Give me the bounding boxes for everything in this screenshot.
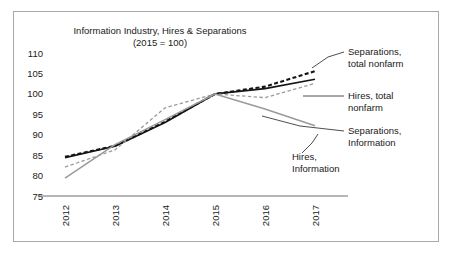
annotation-label-separations-total-nonfarm: Separations, xyxy=(348,46,401,57)
y-tick-label: 105 xyxy=(27,68,43,79)
chart-titles: Information Industry, Hires & Separation… xyxy=(73,25,246,48)
chart-subtitle: (2015 = 100) xyxy=(133,37,187,48)
annotation-label-separations-information: Separations, xyxy=(348,125,401,136)
x-tick-label: 2015 xyxy=(210,205,221,226)
series-line xyxy=(65,94,315,178)
annotation-label-separations-total-nonfarm: total nonfarm xyxy=(348,58,404,69)
series-lines xyxy=(65,71,315,178)
x-tick-label: 2016 xyxy=(260,205,271,226)
y-axis-tick-labels: 1101051009590858075 xyxy=(27,48,43,202)
y-tick-label: 110 xyxy=(28,48,43,59)
y-tick-label: 100 xyxy=(27,88,43,99)
x-axis-tick-labels: 201220132014201520162017 xyxy=(60,205,321,226)
series-annotations: Separations,total nonfarmHires, totalnon… xyxy=(262,46,404,174)
annotation-label-hires-information: Hires, xyxy=(292,151,317,162)
series-line xyxy=(65,79,315,157)
x-tick-label: 2012 xyxy=(60,205,71,226)
annotation-label-hires-information: Information xyxy=(292,163,340,174)
x-tick-label: 2017 xyxy=(310,205,321,226)
y-tick-label: 85 xyxy=(32,150,43,161)
x-tick-label: 2013 xyxy=(110,205,121,226)
annotation-leader-line xyxy=(312,52,344,68)
annotation-label-separations-information: Information xyxy=(348,137,396,148)
annotation-label-hires-total-nonfarm: Hires, total xyxy=(348,90,393,101)
annotation-leader-line xyxy=(262,116,344,131)
series-line xyxy=(65,83,315,167)
line-chart: Information Industry, Hires & Separation… xyxy=(0,0,451,257)
annotation-label-hires-total-nonfarm: nonfarm xyxy=(348,102,383,113)
x-tick-label: 2014 xyxy=(160,205,171,226)
chart-container: Information Industry, Hires & Separation… xyxy=(0,0,451,257)
chart-title: Information Industry, Hires & Separation… xyxy=(73,25,246,36)
y-tick-label: 95 xyxy=(32,109,43,120)
y-tick-label: 90 xyxy=(32,129,43,140)
y-tick-label: 80 xyxy=(32,170,43,181)
